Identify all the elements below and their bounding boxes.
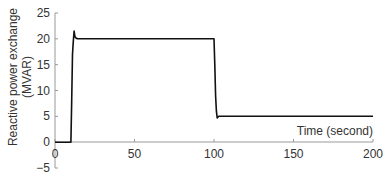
x-tick-label: 0	[52, 147, 59, 161]
y-tick-label: 20	[37, 32, 51, 46]
y-tick-label: 10	[37, 84, 51, 98]
y-axis-title-line2: (MVAR)	[20, 56, 34, 98]
y-tick-label: 25	[37, 6, 51, 20]
y-axis-title-line1: Reactive power exchange	[6, 8, 20, 146]
x-tick-label: 150	[283, 147, 303, 161]
x-tick-label: 200	[363, 147, 383, 161]
line-chart: −50510152025 050100150200 Reactive power…	[0, 0, 388, 179]
y-tick-label: 0	[43, 135, 50, 149]
y-tick-label: −5	[36, 161, 50, 175]
y-tick-label: 5	[43, 109, 50, 123]
y-tick-label: 15	[37, 58, 51, 72]
x-axis-title: Time (second)	[297, 124, 373, 138]
x-tick-label: 100	[204, 147, 224, 161]
x-tick-label: 50	[128, 147, 142, 161]
x-axis: 050100150200	[52, 139, 384, 161]
